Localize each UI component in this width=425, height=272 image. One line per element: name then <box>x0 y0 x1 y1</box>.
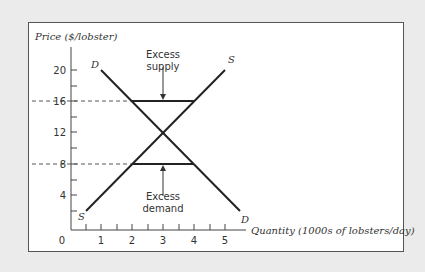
supply-label-bottom: S <box>78 211 85 222</box>
x-tick-label-2: 2 <box>129 235 135 246</box>
x-tick-label-1: 1 <box>98 235 104 246</box>
x-axis-label: Quantity (1000s of lobsters/day) <box>251 225 415 236</box>
excess-supply-label-line1: Excess <box>146 49 180 60</box>
y-ticks <box>71 70 77 211</box>
excess-supply-arrowhead <box>160 94 166 100</box>
x-tick-label-4: 4 <box>191 235 197 246</box>
supply-label-top: S <box>228 54 235 65</box>
excess-demand-arrowhead <box>160 165 166 171</box>
y-tick-label-12: 12 <box>53 127 66 138</box>
x-tick-label-3: 3 <box>160 235 166 246</box>
y-axis-label: Price ($/lobster) <box>34 31 118 42</box>
origin-label: 0 <box>59 235 65 246</box>
demand-curve <box>101 70 240 211</box>
excess-supply-label-line2: supply <box>147 61 180 72</box>
x-tick-label-5: 5 <box>222 235 228 246</box>
demand-label-top: D <box>90 59 99 70</box>
y-tick-label-20: 20 <box>53 65 66 76</box>
x-ticks <box>86 224 225 230</box>
y-tick-label-8: 8 <box>60 159 66 170</box>
supply-demand-chart: Price ($/lobster) Quantity (1000s of lob… <box>0 0 425 272</box>
y-tick-label-4: 4 <box>60 190 66 201</box>
y-tick-label-16: 16 <box>53 96 66 107</box>
supply-curve <box>86 70 225 211</box>
excess-demand-label-line2: demand <box>142 203 183 214</box>
excess-demand-label-line1: Excess <box>146 191 180 202</box>
demand-label-bottom: D <box>240 214 249 225</box>
